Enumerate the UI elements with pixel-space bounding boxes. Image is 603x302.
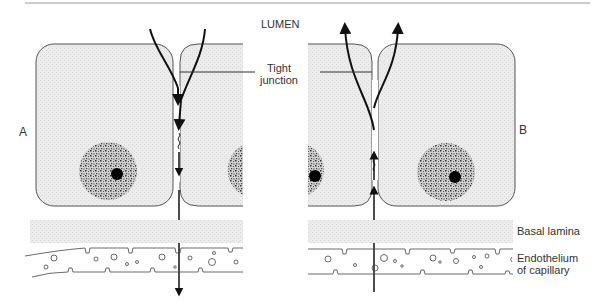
label-panel-a: A — [19, 126, 27, 138]
epithelium-diagram — [0, 0, 603, 302]
nucleolus-b-left — [309, 170, 321, 182]
nucleolus-a — [111, 168, 123, 180]
label-tight-junction: Tight junction — [254, 62, 304, 86]
label-basal-lamina: Basal lamina — [517, 225, 580, 237]
panel-a — [36, 29, 255, 292]
label-endothelium: Endothelium of capillary — [517, 252, 578, 276]
endothelium-b — [308, 249, 513, 274]
nucleolus-b — [449, 171, 461, 183]
label-endothelium-line2: of capillary — [517, 264, 578, 276]
basal-lamina-b — [308, 220, 513, 243]
endothelium-a — [25, 248, 243, 277]
nucleus-b — [417, 143, 475, 201]
label-tight-junction-line2: junction — [254, 74, 304, 86]
label-lumen: LUMEN — [261, 18, 300, 30]
label-endothelium-line1: Endothelium — [517, 252, 578, 264]
basal-lamina-a — [30, 220, 243, 243]
label-tight-junction-line1: Tight — [254, 62, 304, 74]
label-panel-b: B — [519, 124, 527, 136]
panel-b — [308, 28, 515, 292]
nucleus-a — [79, 142, 137, 200]
